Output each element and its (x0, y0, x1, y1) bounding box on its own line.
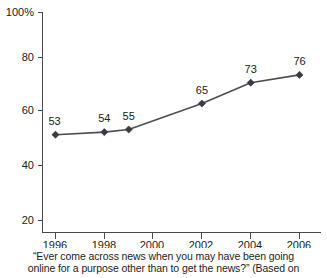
series-markers (52, 71, 303, 138)
y-axis-ticks (38, 13, 43, 221)
y-tick-label-80: 80 (22, 51, 34, 63)
x-axis-ticks (56, 233, 300, 239)
x-tick-label-1998: 1998 (92, 239, 116, 248)
x-tick-label-1996: 1996 (43, 239, 67, 248)
data-point-label: 65 (196, 84, 208, 96)
data-point-label: 53 (48, 115, 60, 127)
y-axis-labels: 100% 80 60 40 20 (6, 6, 34, 226)
caption-line-2: online for a purpose other than to get t… (0, 262, 327, 274)
caption-line-1: “Ever come across news when you may have… (0, 250, 327, 262)
y-tick-label-20: 20 (22, 214, 34, 226)
data-point-marker (247, 79, 254, 86)
series-line (56, 75, 300, 135)
x-tick-label-2006: 2006 (287, 239, 311, 248)
y-tick-label-40: 40 (22, 159, 34, 171)
chart-caption: “Ever come across news when you may have… (0, 250, 327, 275)
line-chart-plot: 100% 80 60 40 20 1996 1998 2000 2002 200… (0, 0, 327, 248)
data-point-marker (125, 126, 132, 133)
x-tick-label-2004: 2004 (238, 239, 262, 248)
data-point-label: 54 (98, 112, 110, 124)
data-point-label: 73 (245, 63, 257, 75)
x-tick-label-2002: 2002 (189, 239, 213, 248)
x-axis-labels: 1996 1998 2000 2002 2004 2006 (43, 239, 311, 248)
data-point-marker (101, 129, 108, 136)
data-point-label: 76 (293, 55, 305, 67)
data-point-marker (198, 100, 205, 107)
y-tick-label-100: 100% (6, 6, 34, 18)
y-tick-label-60: 60 (22, 104, 34, 116)
x-tick-label-2000: 2000 (140, 239, 164, 248)
series-value-labels: 535455657376 (48, 55, 305, 127)
chart-figure: 100% 80 60 40 20 1996 1998 2000 2002 200… (0, 0, 327, 278)
data-point-marker (52, 131, 59, 138)
data-point-label: 55 (123, 110, 135, 122)
data-point-marker (296, 71, 303, 78)
